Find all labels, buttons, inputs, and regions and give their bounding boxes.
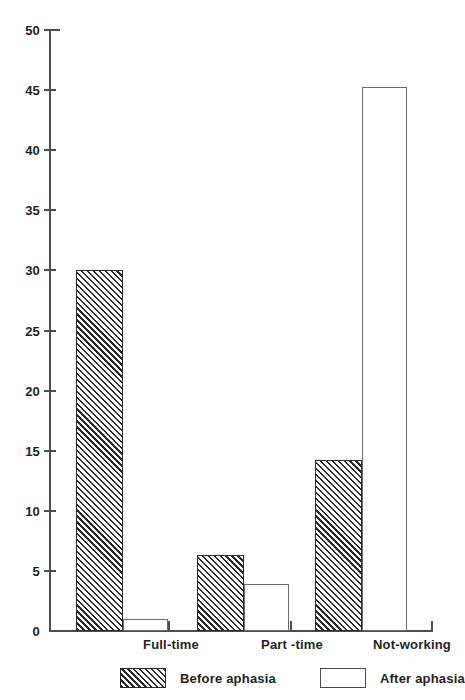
y-axis-tick-label: 15 [0, 443, 40, 458]
x-axis-label-2: Not-working [373, 637, 451, 652]
y-axis-tick-label: 0 [0, 624, 40, 639]
x-axis-label-0: Full-time [143, 637, 199, 652]
legend-label: Before aphasia [180, 671, 276, 686]
y-axis-tick-label: 50 [0, 23, 40, 38]
y-axis-tick-label: 25 [0, 323, 40, 338]
chart-legend: Before aphasiaAfter aphasia [0, 663, 446, 697]
bar-full-time-after [123, 619, 168, 631]
bar-full-time-before [76, 270, 123, 631]
bar-not-working-before [315, 460, 362, 631]
y-axis-tick-label: 40 [0, 143, 40, 158]
bar-not-working-after [362, 87, 407, 632]
legend-label: After aphasia [380, 671, 465, 686]
y-axis-tick-label: 20 [0, 383, 40, 398]
y-axis-tick-label: 45 [0, 83, 40, 98]
bar-part-time-after [244, 584, 289, 631]
y-axis-tick-label: 10 [0, 503, 40, 518]
bar-part-time-before [197, 555, 244, 631]
y-axis-tick-label: 35 [0, 203, 40, 218]
hatched-swatch-icon [120, 668, 166, 688]
y-axis-tick-label: 30 [0, 263, 40, 278]
bars-layer [49, 30, 433, 631]
x-axis-label-1: Part -time [261, 637, 323, 652]
y-axis-tick-label: 5 [0, 563, 40, 578]
open-swatch-icon [320, 668, 366, 688]
legend-item-1: After aphasia [320, 663, 465, 693]
legend-item-0: Before aphasia [120, 663, 276, 693]
